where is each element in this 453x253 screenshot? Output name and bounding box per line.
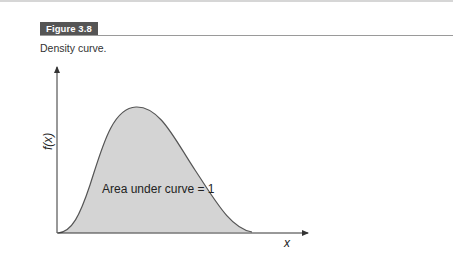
- density-plot: Area under curve = 1 x f(x): [0, 0, 453, 253]
- y-axis-label: f(x): [41, 133, 55, 150]
- x-axis-label: x: [283, 236, 291, 250]
- annotation-text: Area under curve = 1: [102, 182, 215, 196]
- area-under-curve: [58, 107, 252, 233]
